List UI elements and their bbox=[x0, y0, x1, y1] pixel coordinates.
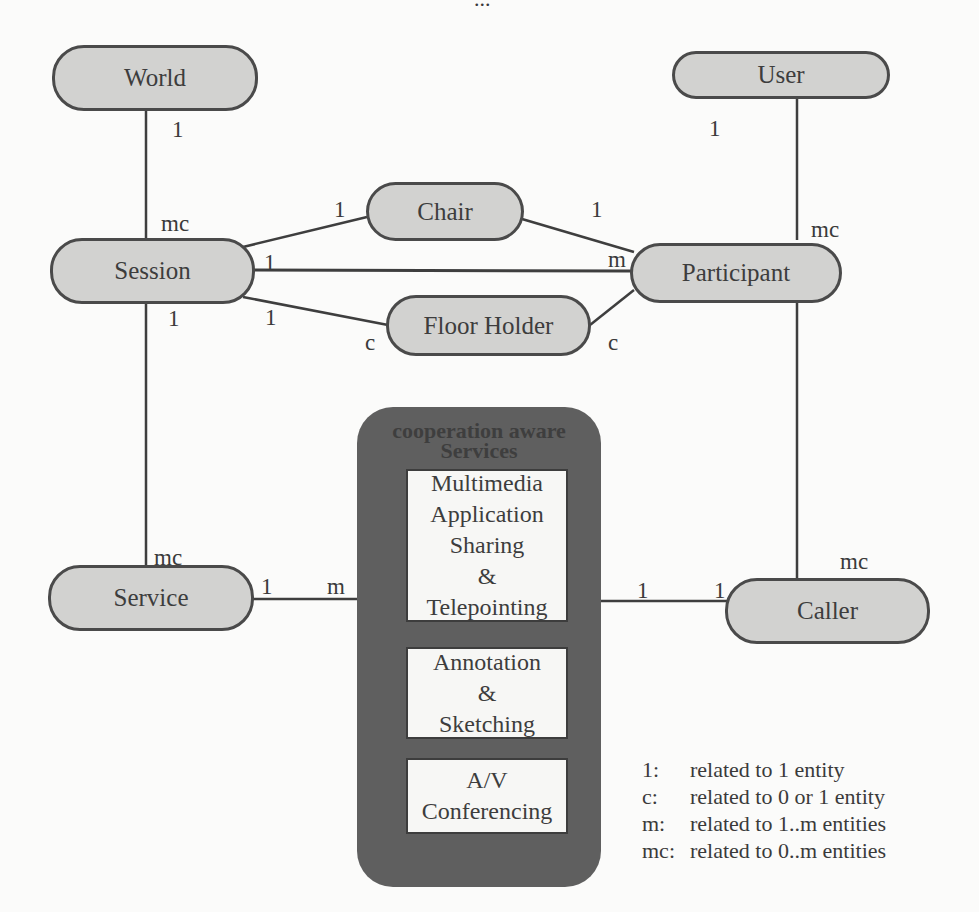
entity-chair: Chair bbox=[366, 182, 524, 241]
card-participant-m: m bbox=[608, 248, 626, 271]
services-group: cooperation aware Services Multimedia Ap… bbox=[357, 407, 601, 887]
entity-floor-holder-label: Floor Holder bbox=[424, 312, 554, 340]
service-box-line: & bbox=[478, 678, 497, 709]
card-floor-left-c: c bbox=[365, 331, 375, 354]
card-services-left-m: m bbox=[327, 575, 345, 598]
legend-text: related to 0..m entities bbox=[690, 837, 886, 864]
legend-text: related to 1 entity bbox=[690, 756, 845, 783]
entity-caller: Caller bbox=[725, 578, 930, 644]
legend-row: m: related to 1..m entities bbox=[642, 810, 886, 837]
card-chair-right: 1 bbox=[591, 198, 603, 221]
card-caller-left-1: 1 bbox=[714, 579, 726, 602]
legend-row: c: related to 0 or 1 entity bbox=[642, 783, 886, 810]
services-title-line2: Services bbox=[357, 441, 601, 461]
service-box-av-conferencing: A/V Conferencing bbox=[406, 758, 568, 834]
entity-caller-label: Caller bbox=[797, 597, 858, 625]
legend-key: c: bbox=[642, 783, 690, 810]
legend-key: mc: bbox=[642, 837, 690, 864]
card-world-session-top: 1 bbox=[172, 118, 184, 141]
card-session-participant: 1 bbox=[264, 251, 276, 274]
legend-row: 1: related to 1 entity bbox=[642, 756, 886, 783]
service-box-line: Telepointing bbox=[427, 592, 548, 623]
services-group-title: cooperation aware Services bbox=[357, 421, 601, 461]
line-floor-participant bbox=[590, 290, 634, 325]
legend-text: related to 1..m entities bbox=[690, 810, 886, 837]
legend-row: mc: related to 0..m entities bbox=[642, 837, 886, 864]
card-services-right-1: 1 bbox=[637, 579, 649, 602]
legend-text: related to 0 or 1 entity bbox=[690, 783, 885, 810]
legend: 1: related to 1 entity c: related to 0 o… bbox=[642, 756, 886, 864]
card-user-participant-top: 1 bbox=[709, 117, 721, 140]
service-box-line: Application bbox=[430, 499, 543, 530]
card-service-right-1: 1 bbox=[261, 575, 273, 598]
card-session-service-top: 1 bbox=[168, 307, 180, 330]
service-box-annotation: Annotation & Sketching bbox=[406, 647, 568, 739]
entity-service-label: Service bbox=[114, 584, 189, 612]
card-user-participant-bottom: mc bbox=[811, 218, 839, 241]
line-session-participant bbox=[252, 270, 631, 271]
service-box-line: Conferencing bbox=[422, 796, 553, 827]
service-box-line: Sharing bbox=[450, 530, 525, 561]
card-service-top-mc: mc bbox=[154, 546, 182, 569]
card-session-floor: 1 bbox=[265, 306, 277, 329]
legend-key: 1: bbox=[642, 756, 690, 783]
entity-participant-label: Participant bbox=[682, 259, 790, 287]
entity-user-label: User bbox=[757, 61, 804, 89]
entity-floor-holder: Floor Holder bbox=[386, 295, 591, 356]
entity-session-label: Session bbox=[114, 257, 190, 285]
entity-service: Service bbox=[48, 565, 254, 631]
entity-chair-label: Chair bbox=[417, 198, 473, 226]
service-box-app-sharing: Multimedia Application Sharing & Telepoi… bbox=[406, 469, 568, 622]
service-box-line: Sketching bbox=[439, 709, 535, 740]
entity-participant: Participant bbox=[630, 243, 842, 303]
card-floor-right-c: c bbox=[608, 331, 618, 354]
line-session-chair bbox=[243, 217, 367, 247]
entity-world-label: World bbox=[124, 64, 186, 92]
entity-user: User bbox=[672, 51, 890, 99]
card-chair-left: 1 bbox=[334, 198, 346, 221]
entity-session: Session bbox=[50, 238, 255, 304]
entity-world: World bbox=[52, 45, 258, 111]
service-box-line: & bbox=[478, 561, 497, 592]
card-world-session-bottom: mc bbox=[161, 212, 189, 235]
service-box-line: A/V bbox=[466, 765, 507, 796]
legend-key: m: bbox=[642, 810, 690, 837]
card-caller-top-mc: mc bbox=[840, 550, 868, 573]
service-box-line: Annotation bbox=[433, 647, 541, 678]
service-box-line: Multimedia bbox=[431, 468, 543, 499]
